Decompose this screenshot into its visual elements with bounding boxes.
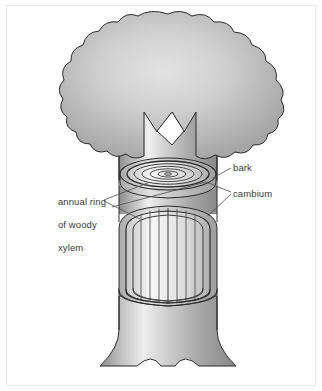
ring-annual-5-pith <box>165 173 172 176</box>
label-annual-ring-line1: annual ring <box>58 196 106 207</box>
label-bark: bark <box>233 162 252 174</box>
label-annual-ring-line3: xylem <box>58 242 83 253</box>
diagram-page: bark cambium annual ring of woody xylem <box>0 0 322 391</box>
tree-canopy <box>59 11 284 158</box>
label-cambium: cambium <box>233 188 272 200</box>
longitudinal-section-block <box>119 203 217 306</box>
label-annual-ring-line2: of woody <box>58 219 97 230</box>
label-annual-ring-of-woody-xylem: annual ring of woody xylem <box>47 184 106 265</box>
